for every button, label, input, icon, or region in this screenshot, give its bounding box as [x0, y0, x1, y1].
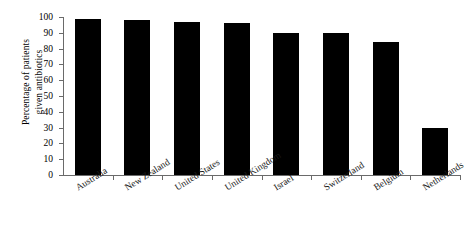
y-tick-mark	[59, 80, 63, 81]
bar	[373, 42, 399, 175]
y-tick-label: 30	[29, 123, 53, 132]
y-tick-label: 90	[29, 28, 53, 37]
y-tick-mark	[59, 128, 63, 129]
bar-chart: Percentage of patients given antibiotics…	[0, 0, 467, 249]
y-tick-label: 20	[29, 139, 53, 148]
y-tick-mark	[59, 159, 63, 160]
x-tick-mark	[113, 175, 114, 180]
y-tick-label: 100	[29, 13, 53, 22]
bar	[124, 20, 150, 175]
y-tick-mark	[59, 143, 63, 144]
y-tick-label: 60	[29, 76, 53, 85]
y-tick-label: 50	[29, 92, 53, 101]
y-tick-mark	[59, 49, 63, 50]
bar	[75, 19, 101, 175]
bar	[174, 22, 200, 175]
y-tick-label: 80	[29, 44, 53, 53]
y-tick-mark	[59, 112, 63, 113]
y-tick-label: 40	[29, 107, 53, 116]
y-tick-label: 70	[29, 60, 53, 69]
bar	[323, 33, 349, 175]
x-tick-mark	[162, 175, 163, 180]
y-tick-mark	[59, 64, 63, 65]
y-tick-label: 0	[29, 171, 53, 180]
y-axis-line	[63, 17, 64, 175]
plot-area: 0102030405060708090100	[63, 17, 460, 175]
y-tick-mark	[59, 96, 63, 97]
y-tick-mark	[59, 175, 63, 176]
bar	[224, 23, 250, 175]
x-tick-mark	[311, 175, 312, 180]
y-tick-mark	[59, 33, 63, 34]
y-tick-mark	[59, 17, 63, 18]
x-tick-mark	[212, 175, 213, 180]
x-tick-mark	[361, 175, 362, 180]
y-tick-label: 10	[29, 155, 53, 164]
x-tick-mark	[410, 175, 411, 180]
x-tick-mark	[262, 175, 263, 180]
x-tick-mark	[460, 175, 461, 180]
